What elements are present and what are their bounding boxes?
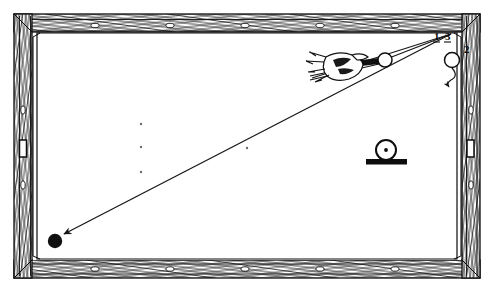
illustration-root: 1 3 2 xyxy=(0,0,495,294)
target-ball-at-rail xyxy=(445,53,460,68)
inset-cushion-bar xyxy=(366,159,407,165)
label-3: 3 xyxy=(445,30,451,42)
side-pocket-left xyxy=(20,140,27,157)
inset-ball-center-dot xyxy=(384,148,388,152)
object-ball xyxy=(48,234,62,248)
side-pocket-right xyxy=(467,140,474,157)
rail-bottom xyxy=(14,260,480,278)
rail-left xyxy=(14,14,32,278)
cue-ball xyxy=(378,53,392,67)
billiards-table-figure: 1 3 2 xyxy=(0,0,495,294)
playing-surface xyxy=(33,33,461,260)
rail-top xyxy=(14,14,480,32)
label-2: 2 xyxy=(464,43,470,55)
label-1: 1 xyxy=(434,30,440,42)
